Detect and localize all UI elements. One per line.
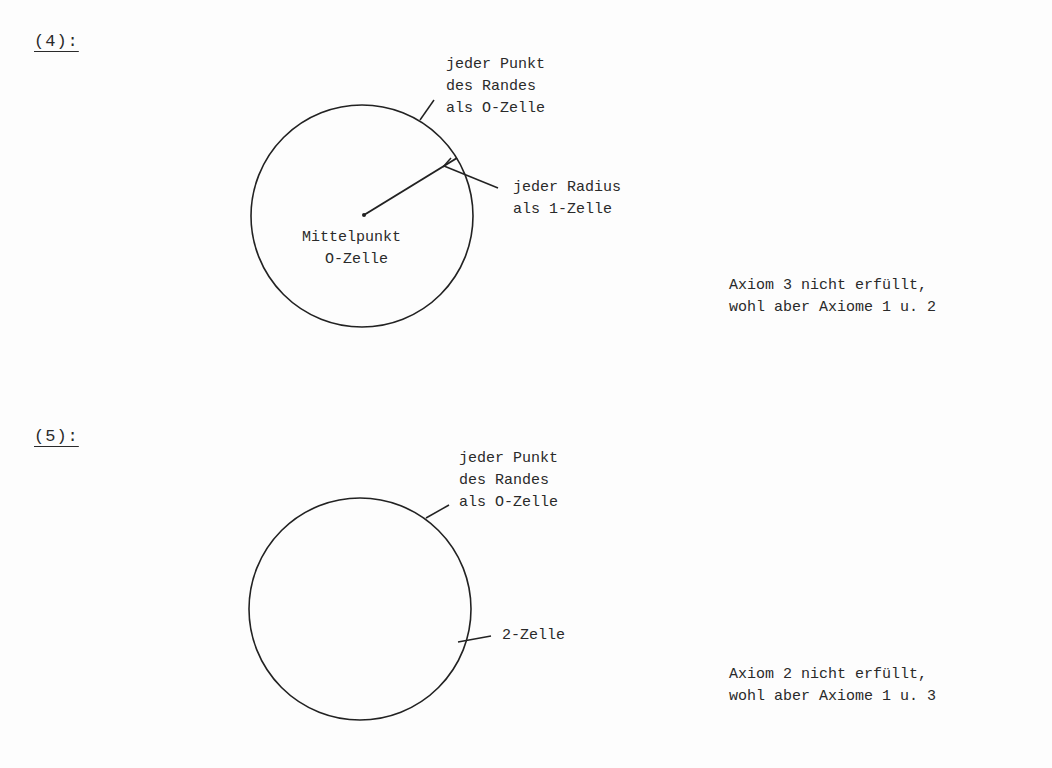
circle-fig4 bbox=[251, 105, 473, 327]
center-label-line1: Mittelpunkt bbox=[302, 227, 401, 248]
boundary-leader-fig4 bbox=[420, 100, 434, 120]
center-label-line2: O-Zelle bbox=[325, 249, 388, 270]
conclusion-5-line1: Axiom 2 nicht erfüllt, bbox=[729, 664, 927, 685]
boundary-label-line2: des Randes bbox=[446, 76, 536, 97]
circle-fig5 bbox=[249, 498, 471, 720]
figure-label-5: (5): bbox=[34, 427, 79, 446]
conclusion-5-line2: wohl aber Axiome 1 u. 3 bbox=[729, 686, 936, 707]
boundary-label-5-line2: des Randes bbox=[459, 470, 549, 491]
figure-label-4: (4): bbox=[34, 32, 79, 51]
radius-label-line1: jeder Radius bbox=[513, 177, 621, 198]
interior-label: 2-Zelle bbox=[502, 625, 565, 646]
radius-label-line2: als 1-Zelle bbox=[513, 199, 612, 220]
boundary-label-5-line1: jeder Punkt bbox=[459, 448, 558, 469]
radius-leader bbox=[444, 166, 498, 188]
boundary-label-line1: jeder Punkt bbox=[446, 54, 545, 75]
boundary-leader-fig5 bbox=[426, 505, 449, 518]
boundary-label-5-line3: als O-Zelle bbox=[459, 492, 558, 513]
boundary-label-line3: als O-Zelle bbox=[446, 98, 545, 119]
center-point bbox=[362, 213, 366, 217]
interior-leader bbox=[458, 636, 491, 642]
conclusion-4-line2: wohl aber Axiome 1 u. 2 bbox=[729, 297, 936, 318]
conclusion-4-line1: Axiom 3 nicht erfüllt, bbox=[729, 275, 927, 296]
